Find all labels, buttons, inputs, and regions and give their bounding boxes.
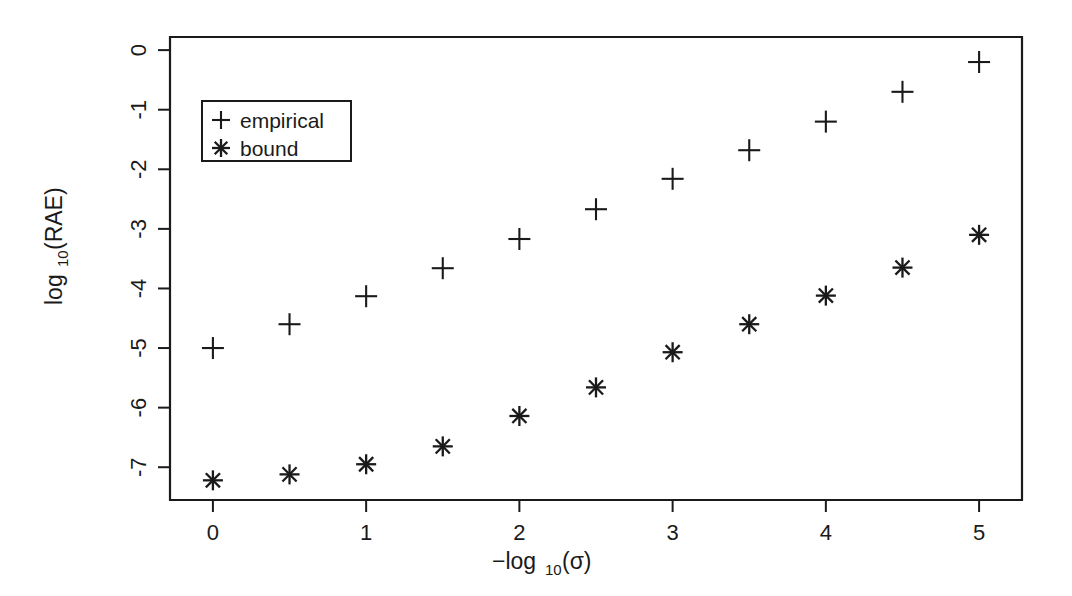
x-axis-title-subscript: 10 bbox=[545, 561, 562, 578]
x-axis-title-prefix: −log bbox=[492, 548, 536, 574]
data-point-bound bbox=[816, 286, 836, 306]
x-tick-label: 2 bbox=[513, 520, 525, 545]
y-tick-label-group: -2 bbox=[126, 160, 151, 180]
data-point-bound bbox=[356, 454, 376, 474]
scatter-plot: 012345 0-1-2-3-4-5-6-7 −log 10 (σ) log 1… bbox=[0, 0, 1072, 596]
data-point-bound bbox=[280, 464, 300, 484]
data-point-bound bbox=[203, 470, 223, 490]
data-point-bound bbox=[739, 314, 759, 334]
y-tick-label: -7 bbox=[126, 457, 151, 477]
x-tick-label: 4 bbox=[820, 520, 832, 545]
y-axis-title: log 10 (RAE) bbox=[41, 187, 71, 305]
legend: empirical bound bbox=[202, 101, 351, 161]
y-tick-label-group: -7 bbox=[126, 457, 151, 477]
y-axis-title-subscript: 10 bbox=[54, 250, 71, 267]
x-axis-title-suffix: (σ) bbox=[562, 548, 592, 574]
data-point-bound bbox=[663, 342, 683, 362]
x-tick-label: 3 bbox=[666, 520, 678, 545]
x-tick-label: 5 bbox=[973, 520, 985, 545]
legend-label-empirical: empirical bbox=[240, 109, 324, 132]
y-tick-label: -4 bbox=[126, 279, 151, 299]
y-tick-label-group: -5 bbox=[126, 338, 151, 358]
y-tick-label: -2 bbox=[126, 160, 151, 180]
y-tick-label: 0 bbox=[126, 44, 151, 56]
y-tick-label: -5 bbox=[126, 338, 151, 358]
data-point-bound bbox=[509, 406, 529, 426]
y-tick-label: -1 bbox=[126, 100, 151, 120]
legend-label-bound: bound bbox=[240, 137, 298, 160]
y-axis-title-suffix: (RAE) bbox=[41, 187, 67, 250]
y-axis-title-prefix: log bbox=[41, 274, 67, 305]
x-tick-label: 0 bbox=[207, 520, 219, 545]
data-point-bound bbox=[892, 258, 912, 278]
data-point-bound bbox=[586, 377, 606, 397]
data-point-bound bbox=[433, 436, 453, 456]
y-tick-label: -6 bbox=[126, 398, 151, 418]
y-tick-label-group: -1 bbox=[126, 100, 151, 120]
y-tick-label: -3 bbox=[126, 219, 151, 239]
x-tick-label: 1 bbox=[360, 520, 372, 545]
figure-container: 012345 0-1-2-3-4-5-6-7 −log 10 (σ) log 1… bbox=[0, 0, 1072, 596]
y-tick-label-group: 0 bbox=[126, 44, 151, 56]
asterisk-icon bbox=[212, 139, 230, 157]
y-tick-label-group: -3 bbox=[126, 219, 151, 239]
y-tick-label-group: -6 bbox=[126, 398, 151, 418]
data-point-bound bbox=[969, 225, 989, 245]
y-tick-label-group: -4 bbox=[126, 279, 151, 299]
plot-background bbox=[0, 0, 1072, 596]
